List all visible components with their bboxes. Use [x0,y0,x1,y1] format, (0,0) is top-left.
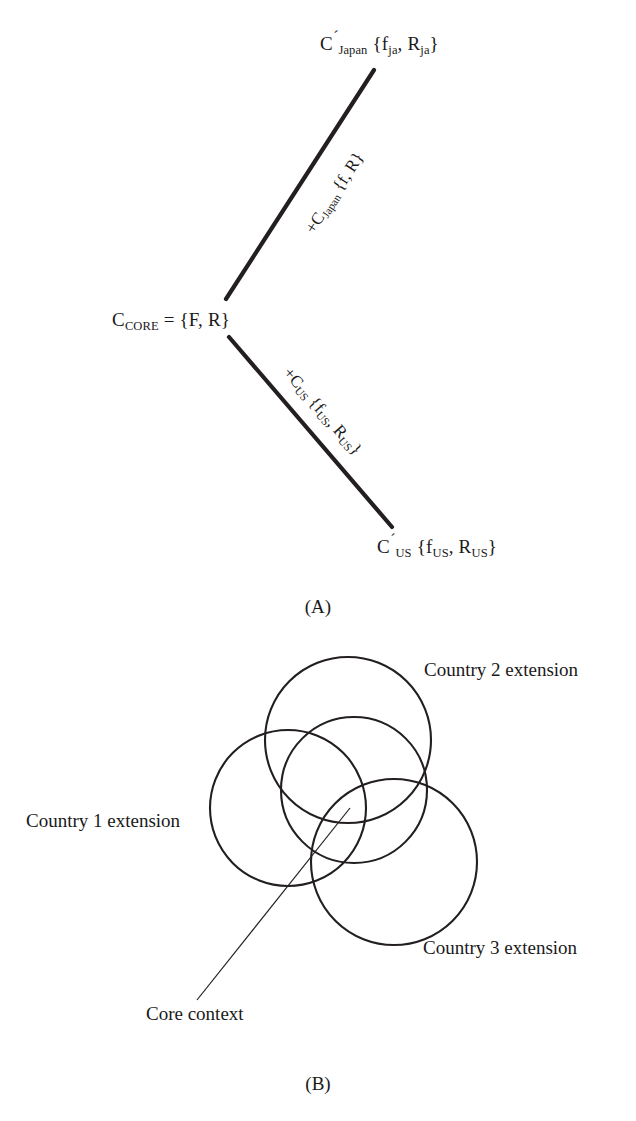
node-japan-set-open: {f [368,33,389,54]
figure-container: C´Japan {fja, Rja} CCORE = {F, R} C´US {… [0,0,636,1121]
node-japan-set-mid: , R [398,33,421,54]
branch-line-us [229,337,392,527]
node-core-subscript: CORE [125,319,159,333]
node-japan-subscript: Japan [338,43,367,57]
node-japan-set-close: } [430,33,439,54]
core-context-leader-line [197,808,350,1000]
node-japan-extension: C´Japan {fja, Rja} [320,30,439,54]
node-us-extension: C´US {fUS, RUS} [377,533,497,557]
panel-a-caption: (A) [0,597,636,617]
node-core-set: = {F, R} [159,309,230,330]
label-country-3-extension: Country 3 extension [423,938,577,958]
label-core-context: Core context [146,1004,244,1024]
node-us-r-subscript: US [472,546,488,560]
node-us-subscript: US [395,546,411,560]
node-us-set-mid: , R [449,536,472,557]
node-japan-f-subscript: ja [388,43,397,57]
node-us-set-open: {f [412,536,433,557]
label-country-1-extension: Country 1 extension [26,811,180,831]
branch-line-japan [226,70,374,299]
node-us-f-subscript: US [432,546,448,560]
node-us-base: C [377,536,390,557]
node-core-base: C [112,309,125,330]
country-3-circle [311,779,477,945]
node-us-set-close: } [488,536,497,557]
panel-b-caption: (B) [0,1074,636,1094]
label-country-2-extension: Country 2 extension [424,660,578,680]
node-japan-base: C [320,33,333,54]
node-core-context: CCORE = {F, R} [112,310,230,330]
node-japan-r-subscript: ja [420,43,429,57]
